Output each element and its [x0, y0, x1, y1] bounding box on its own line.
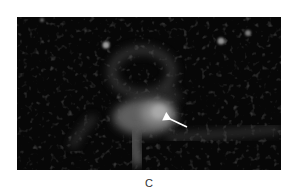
panel-label: C — [0, 176, 296, 190]
micrograph-panel — [17, 17, 281, 170]
micrograph-image — [17, 17, 281, 170]
